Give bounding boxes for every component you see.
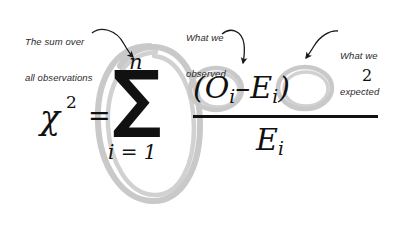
denominator-subscript: i — [278, 138, 284, 159]
annotation-what-we-observed: What we observed — [186, 8, 226, 104]
annotation-expected-line2: expected — [340, 86, 379, 98]
paren-close: ) — [278, 70, 290, 105]
annotation-sum-line1: The sum over — [25, 36, 93, 48]
summation-lower-limit: i = 1 — [108, 140, 157, 164]
fraction-denominator: Ei — [256, 122, 284, 159]
annotation-sum-line2: all observations — [25, 72, 93, 84]
annotation-expected-line1: What we — [340, 50, 379, 62]
expected-term: E — [250, 70, 272, 105]
minus-sign: – — [235, 70, 250, 105]
annotation-observed-line1: What we — [186, 32, 226, 44]
chi-square-formula-diagram: χ 2 = n ∑ i = 1 (Oi–Ei) 2 Ei The sum ove… — [0, 0, 406, 225]
denominator-term: E — [256, 122, 278, 157]
annotation-sum-over-all-observations: The sum over all observations — [25, 12, 93, 108]
annotation-what-we-expected: What we expected — [340, 26, 379, 122]
annotation-observed-line2: observed — [186, 68, 226, 80]
summation-symbol: ∑ — [112, 60, 161, 134]
